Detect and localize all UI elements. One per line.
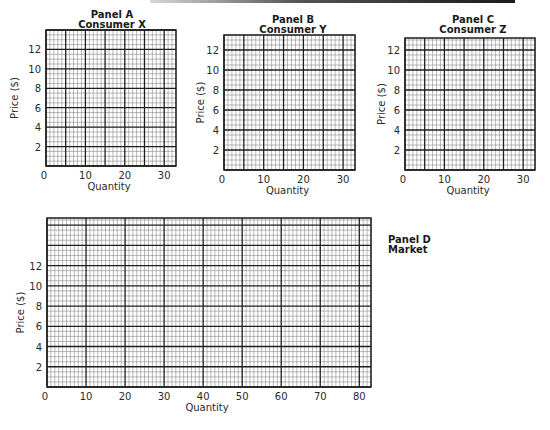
x-tick-label: 30 <box>517 174 530 185</box>
y-axis-label: Price ($) <box>9 77 20 119</box>
y-tick-label: 6 <box>394 105 400 116</box>
panel-b-chart: 010203024681012QuantityPrice ($) <box>195 35 355 196</box>
x-tick-label: 40 <box>197 391 210 402</box>
x-axis-label: Quantity <box>87 181 130 192</box>
y-tick-label: 4 <box>394 125 400 136</box>
y-tick-label: 6 <box>213 105 219 116</box>
x-tick-label: 20 <box>477 174 490 185</box>
y-tick-label: 6 <box>35 103 41 114</box>
y-tick-label: 2 <box>394 145 400 156</box>
x-tick-label: 10 <box>79 170 92 181</box>
x-tick-label: 10 <box>257 174 270 185</box>
y-axis-label: Price ($) <box>195 82 206 124</box>
x-tick-label: 20 <box>119 391 132 402</box>
y-tick-label: 10 <box>28 64 41 75</box>
panel-a-chart: 010203024681012QuantityPrice ($) <box>9 30 176 192</box>
x-axis-label: Quantity <box>185 402 228 413</box>
x-tick-label: 0 <box>41 170 47 181</box>
x-tick-label: 70 <box>314 391 327 402</box>
y-tick-label: 4 <box>213 125 219 136</box>
y-tick-label: 8 <box>394 85 400 96</box>
x-tick-label: 0 <box>219 174 225 185</box>
y-tick-label: 12 <box>29 261 42 272</box>
y-tick-label: 8 <box>213 85 219 96</box>
y-tick-label: 2 <box>36 362 42 373</box>
y-tick-label: 6 <box>36 321 42 332</box>
x-tick-label: 20 <box>297 174 310 185</box>
x-tick-label: 10 <box>438 174 451 185</box>
x-tick-label: 10 <box>80 391 93 402</box>
x-tick-label: 30 <box>158 170 171 181</box>
y-tick-label: 10 <box>29 281 42 292</box>
x-tick-label: 30 <box>337 174 350 185</box>
x-tick-label: 20 <box>118 170 131 181</box>
y-axis-label: Price ($) <box>376 83 387 125</box>
x-axis-label: Quantity <box>446 185 489 196</box>
y-tick-label: 12 <box>206 45 219 56</box>
y-tick-label: 10 <box>387 65 400 76</box>
x-tick-label: 50 <box>236 391 249 402</box>
y-tick-label: 12 <box>387 45 400 56</box>
y-tick-label: 10 <box>206 65 219 76</box>
panel-c-chart: 010203024681012QuantityPrice ($) <box>376 38 535 196</box>
x-tick-label: 0 <box>42 391 48 402</box>
x-tick-label: 0 <box>400 174 406 185</box>
x-tick-label: 60 <box>275 391 288 402</box>
y-tick-label: 2 <box>35 142 41 153</box>
y-tick-label: 8 <box>36 301 42 312</box>
y-tick-label: 4 <box>35 122 41 133</box>
x-axis-label: Quantity <box>266 185 309 196</box>
x-tick-label: 80 <box>353 391 366 402</box>
y-axis-label: Price ($) <box>15 292 26 334</box>
y-tick-label: 12 <box>28 44 41 55</box>
y-tick-label: 8 <box>35 83 41 94</box>
panel-d-chart: 0102030405060708024681012QuantityPrice (… <box>15 218 371 413</box>
y-tick-label: 2 <box>213 145 219 156</box>
chart-canvas: 010203024681012QuantityPrice ($) 0102030… <box>0 0 550 430</box>
x-tick-label: 30 <box>158 391 171 402</box>
y-tick-label: 4 <box>36 342 42 353</box>
